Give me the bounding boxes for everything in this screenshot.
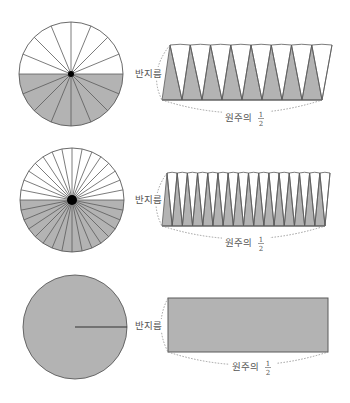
row-32-sectors: 반지름원주의12	[20, 148, 330, 254]
center-dot	[67, 195, 77, 205]
circle-group	[20, 148, 124, 252]
row-16-sectors: 반지름원주의12	[19, 22, 332, 129]
circle-area-diagram: 반지름원주의12반지름원주의12반지름원주의12	[0, 0, 350, 403]
half-circumference-label: 원주의	[225, 237, 252, 248]
fraction-numerator: 1	[259, 236, 263, 244]
rectangle	[168, 298, 328, 352]
parallelogram-group	[162, 44, 332, 100]
circle-group	[19, 22, 123, 126]
diagram-canvas: 반지름원주의12반지름원주의12반지름원주의12	[0, 0, 350, 403]
fraction-denominator: 2	[259, 245, 263, 253]
fraction-denominator: 2	[259, 120, 263, 128]
row-full-circle: 반지름원주의12	[23, 275, 328, 379]
fraction-numerator: 1	[259, 111, 263, 119]
radius-label: 반지름	[135, 68, 162, 79]
circle-group	[23, 275, 127, 379]
fraction-numerator: 1	[266, 360, 270, 368]
half-circumference-label: 원주의	[232, 361, 259, 372]
fraction-denominator: 2	[266, 369, 270, 377]
center-dot	[68, 71, 74, 77]
radius-label: 반지름	[135, 320, 162, 331]
rectangle-group	[168, 298, 328, 352]
half-circumference-label: 원주의	[225, 112, 252, 123]
parallelogram-group	[162, 172, 330, 226]
radius-label: 반지름	[135, 194, 162, 205]
